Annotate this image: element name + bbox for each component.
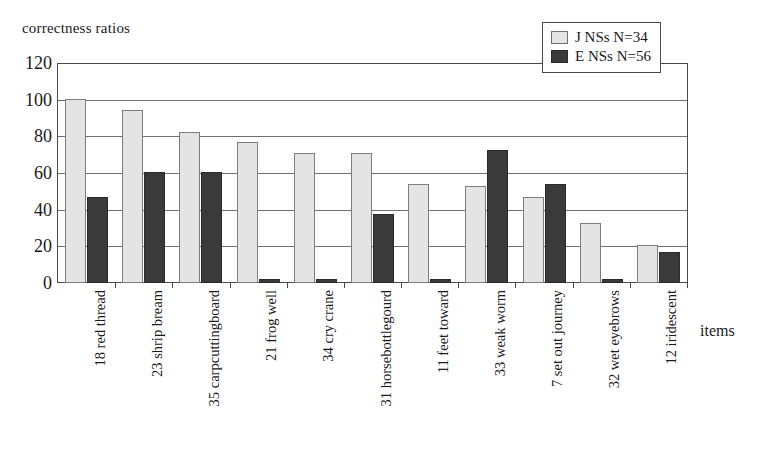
x-axis-tick-label: 7 set out journey — [550, 290, 565, 387]
bar-j-nss — [465, 186, 486, 283]
bar-e-nss — [487, 150, 508, 283]
x-axis-tick-label: 34 cry crane — [321, 290, 336, 362]
x-axis-tickmark — [344, 283, 345, 288]
x-axis-tickmark — [115, 283, 116, 288]
bar-e-nss — [545, 184, 566, 283]
x-axis-tickmark — [515, 283, 516, 288]
x-axis-tickmark — [401, 283, 402, 288]
bar-j-nss — [580, 223, 601, 283]
x-axis-tick-label: 11 feet toward — [436, 290, 451, 373]
bar-chart: correctness ratios 020406080100120 18 re… — [0, 0, 766, 463]
y-axis-tick-label: 20 — [0, 237, 52, 255]
bar-group — [465, 64, 508, 283]
legend-item: E NSs N=56 — [551, 47, 651, 66]
bar-group — [122, 64, 165, 283]
y-axis-tick-label: 60 — [0, 164, 52, 182]
x-axis-tickmark — [630, 283, 631, 288]
bar-group — [179, 64, 222, 283]
bar-group — [294, 64, 337, 283]
x-axis-tickmarks — [58, 283, 687, 289]
bar-j-nss — [237, 142, 258, 283]
bar-j-nss — [637, 245, 658, 283]
y-axis-tick-label: 80 — [0, 127, 52, 145]
bar-j-nss — [523, 197, 544, 283]
bar-group — [580, 64, 623, 283]
x-axis-tick-label: 12 iridescent — [664, 290, 679, 365]
x-axis-tick-label: 21 frog well — [264, 290, 279, 361]
x-axis-tick-label: 23 shrip bream — [150, 290, 165, 377]
bar-j-nss — [408, 184, 429, 283]
x-axis-tickmark — [172, 283, 173, 288]
bar-j-nss — [65, 99, 86, 283]
bar-group — [523, 64, 566, 283]
bars-layer — [58, 64, 687, 283]
legend-swatch-dark — [551, 50, 568, 63]
x-axis-tick-labels: 18 red thread23 shrip bream35 carpcuttin… — [58, 290, 687, 450]
bar-group — [637, 64, 680, 283]
legend-label: J NSs N=34 — [575, 30, 648, 45]
x-axis-tickmark — [573, 283, 574, 288]
legend-item: J NSs N=34 — [551, 28, 651, 47]
y-axis-tick-label: 100 — [0, 91, 52, 109]
x-axis-tickmark — [287, 283, 288, 288]
x-axis-title: items — [700, 322, 735, 340]
bar-e-nss — [87, 197, 108, 283]
x-axis-tick-label: 33 weak worm — [493, 290, 508, 376]
x-axis-tick-label: 35 carpcuttingboard — [207, 290, 222, 406]
x-axis-tick-label: 31 horsebottlegourd — [379, 290, 394, 406]
legend: J NSs N=34E NSs N=56 — [542, 22, 661, 73]
x-axis-tickmark — [687, 283, 688, 288]
bar-e-nss — [201, 172, 222, 283]
y-axis-tick-label: 40 — [0, 201, 52, 219]
x-axis-tick-label: 18 red thread — [93, 290, 108, 367]
bar-e-nss — [659, 252, 680, 283]
legend-label: E NSs N=56 — [575, 49, 651, 64]
y-axis-tick-label: 0 — [0, 274, 52, 292]
x-axis-tickmark — [230, 283, 231, 288]
bar-group — [237, 64, 280, 283]
x-axis-tickmark — [458, 283, 459, 288]
y-axis-title: correctness ratios — [22, 20, 130, 37]
bar-j-nss — [294, 153, 315, 283]
bar-e-nss — [373, 214, 394, 283]
bar-e-nss — [144, 172, 165, 283]
bar-j-nss — [179, 132, 200, 283]
bar-group — [351, 64, 394, 283]
x-axis-tick-label: 32 wet eyebrows — [607, 290, 622, 388]
y-axis-tick-label: 120 — [0, 54, 52, 72]
bar-j-nss — [122, 110, 143, 283]
bar-j-nss — [351, 153, 372, 283]
bar-group — [408, 64, 451, 283]
legend-swatch-light — [551, 31, 568, 44]
bar-group — [65, 64, 108, 283]
